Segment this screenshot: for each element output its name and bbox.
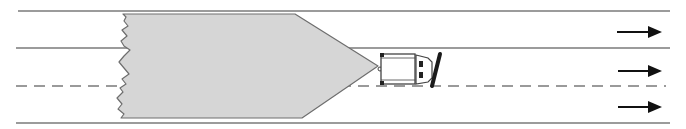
wheel-icon bbox=[419, 61, 423, 67]
truck-cab bbox=[416, 55, 432, 84]
wheel-icon bbox=[380, 53, 384, 57]
snow-mass-shape bbox=[117, 14, 378, 118]
plow-blade-icon bbox=[432, 54, 440, 86]
truck-body bbox=[381, 54, 415, 84]
snow-mass bbox=[117, 14, 378, 118]
snowplow-vehicle bbox=[378, 53, 440, 86]
arrow-right-icon bbox=[618, 101, 662, 113]
arrow-right-icon bbox=[617, 26, 662, 38]
wheel-icon bbox=[419, 72, 423, 78]
direction-arrows bbox=[617, 26, 662, 113]
wheel-icon bbox=[380, 81, 384, 85]
arrow-right-icon bbox=[618, 65, 662, 77]
road-diagram bbox=[0, 0, 686, 129]
